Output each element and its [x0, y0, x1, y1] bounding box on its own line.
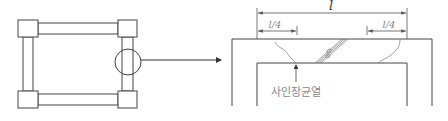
- corner-node-top-right: [118, 20, 137, 37]
- label-right-quarter: l/4: [383, 19, 396, 30]
- crack-label: 사인장균열: [271, 86, 321, 99]
- crack-right: [378, 39, 400, 63]
- diagonal-crack-band: [315, 39, 348, 63]
- bottom-beam: [38, 94, 118, 105]
- corner-node-bottom-left: [18, 91, 38, 108]
- corner-node-top-left: [18, 20, 38, 37]
- frame-crack-diagram: l l/4 l/4 사인장균열: [0, 0, 448, 121]
- beam-outer-edge: [232, 39, 432, 106]
- right-column: [122, 37, 133, 91]
- label-total-length: l: [329, 0, 333, 13]
- corner-node-bottom-right: [118, 91, 137, 108]
- crack-left: [275, 42, 296, 63]
- beam-detail: [232, 39, 432, 106]
- frame-overview: [18, 20, 141, 108]
- left-column: [23, 37, 33, 91]
- top-beam: [38, 23, 118, 34]
- beam-inner-edge: [257, 63, 407, 106]
- label-left-quarter: l/4: [269, 19, 282, 30]
